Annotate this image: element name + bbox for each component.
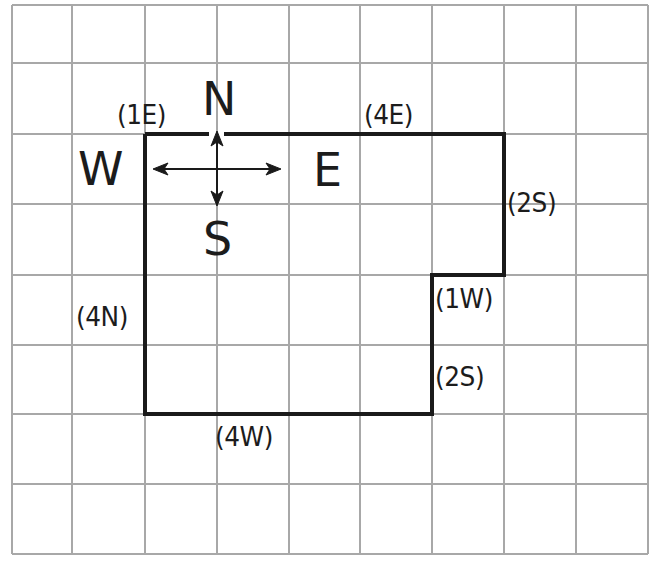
compass-east-label: E [313,147,342,193]
compass-north-label: N [202,76,236,122]
compass-south-label: S [203,216,232,262]
compass-arrows [153,131,281,206]
compass-west-label: W [78,146,123,192]
grid-lines [12,5,648,554]
step-label-2s-upper: (2S) [507,189,556,216]
step-label-2s-lower: (2S) [435,363,484,390]
step-label-4n: (4N) [76,303,128,330]
grid-diagram [0,0,651,563]
step-label-1w: (1W) [435,285,493,312]
step-label-4w: (4W) [215,423,273,450]
step-label-1e: (1E) [117,101,166,128]
step-label-4e: (4E) [364,101,413,128]
